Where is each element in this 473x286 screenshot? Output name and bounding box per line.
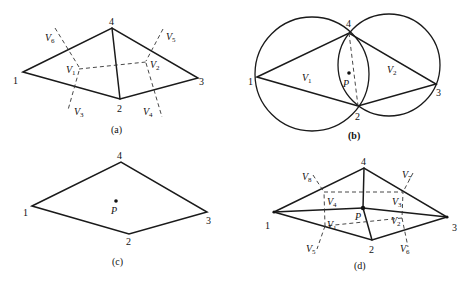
- voronoi-label-v4: V4: [327, 196, 337, 209]
- voronoi-label-v7: V7: [402, 169, 412, 182]
- caption-b: (b): [348, 130, 360, 142]
- node-label-4: 4: [109, 16, 114, 27]
- edge-p-2: [363, 208, 372, 240]
- node-label-2: 2: [117, 103, 122, 114]
- node-label-4: 4: [117, 150, 122, 161]
- voronoi-label-v3: V3: [74, 106, 84, 119]
- node-label-2: 2: [355, 111, 360, 122]
- point-p-dot: [361, 206, 365, 210]
- edge-4-p: [363, 168, 364, 208]
- figure-c: P 1 4 2 3 (c): [23, 150, 211, 268]
- figure-a: 1 4 2 3 V6 V1 V3 V5 V2 V4 (a): [13, 16, 204, 136]
- voronoi-label-v5: V5: [306, 243, 316, 256]
- delaunay-voronoi-diagram: 1 4 2 3 V6 V1 V3 V5 V2 V4 (a) 1 4 2 3 P …: [0, 0, 473, 286]
- caption-c: (c): [112, 256, 123, 268]
- node-label-3: 3: [452, 222, 457, 233]
- figure-d: 1 4 2 3 P V8 V4 V3 V7 V1 V2 V5 V6 (d): [265, 156, 457, 272]
- caption-a: (a): [111, 124, 122, 136]
- node-label-2: 2: [126, 236, 131, 247]
- node-dot-3: [446, 216, 449, 219]
- node-dot-1: [273, 211, 276, 214]
- node-label-2: 2: [369, 244, 374, 255]
- voronoi-label-v6: V6: [45, 32, 55, 45]
- quad-outline: [274, 168, 447, 240]
- voronoi-label-v2: V2: [387, 64, 397, 77]
- point-p-dot: [114, 199, 118, 203]
- point-p-label: P: [110, 205, 117, 216]
- point-p-label: P: [354, 211, 361, 222]
- voronoi-edge-v1-v6: [55, 28, 79, 67]
- diagonal-4-2: [112, 28, 120, 99]
- edge-1-p: [274, 208, 363, 212]
- voronoi-label-v4: V4: [143, 106, 153, 119]
- node-label-1: 1: [23, 207, 28, 218]
- voronoi-label-v1: V1: [302, 72, 312, 85]
- diagonal-4-2-dashed: [349, 33, 358, 106]
- voronoi-label-v1: V1: [327, 219, 337, 232]
- voronoi-label-v6: V6: [400, 243, 410, 256]
- voronoi-label-v5: V5: [166, 31, 176, 44]
- quad-outline: [257, 33, 436, 106]
- node-label-3: 3: [436, 87, 441, 98]
- voronoi-label-v2: V2: [391, 215, 401, 228]
- node-label-1: 1: [248, 76, 253, 87]
- voronoi-label-v2: V2: [150, 59, 160, 72]
- voronoi-label-v8: V8: [302, 171, 312, 184]
- node-label-3: 3: [206, 215, 211, 226]
- node-label-1: 1: [13, 75, 18, 86]
- voronoi-edge-v1-v2: [79, 62, 146, 69]
- node-label-1: 1: [265, 220, 270, 231]
- quad-outline: [32, 162, 207, 234]
- node-label-4: 4: [361, 156, 366, 167]
- node-label-4: 4: [346, 18, 351, 29]
- figure-b: 1 4 2 3 P V1 V2 (b): [248, 14, 441, 142]
- voronoi-label-v3: V3: [392, 196, 402, 209]
- caption-d: (d): [354, 260, 366, 272]
- voronoi-label-v1: V1: [66, 64, 76, 77]
- node-label-3: 3: [199, 76, 204, 87]
- point-p-label: P: [342, 78, 349, 89]
- point-p-dot: [347, 71, 351, 75]
- voronoi-edge-v1-v5: [317, 226, 325, 249]
